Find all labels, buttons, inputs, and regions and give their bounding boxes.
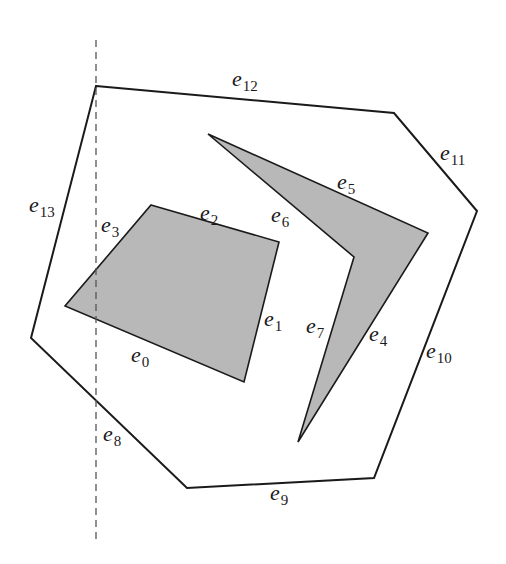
edge-label-e5: e5 xyxy=(337,169,355,197)
edge-label-e2: e2 xyxy=(200,200,218,228)
edge-label-e6: e6 xyxy=(271,202,290,230)
edge-label-e10: e10 xyxy=(426,338,452,366)
edge-label-e4: e4 xyxy=(369,321,388,349)
edge-label-e8: e8 xyxy=(103,421,121,449)
edge-label-e13: e13 xyxy=(29,192,55,220)
edge-label-e12: e12 xyxy=(232,66,258,94)
edge-label-e0: e0 xyxy=(131,342,149,370)
edge-label-e7: e7 xyxy=(306,313,325,341)
edge-label-e11: e11 xyxy=(440,140,465,168)
edge-label-e3: e3 xyxy=(101,212,119,240)
quadrilateral-hole xyxy=(65,205,279,382)
edge-label-e1: e1 xyxy=(264,306,282,334)
edge-label-e9: e9 xyxy=(270,480,288,508)
polygon-diagram: e0e1e2e3e4e5e6e7e8e9e10e11e12e13 xyxy=(0,0,506,564)
